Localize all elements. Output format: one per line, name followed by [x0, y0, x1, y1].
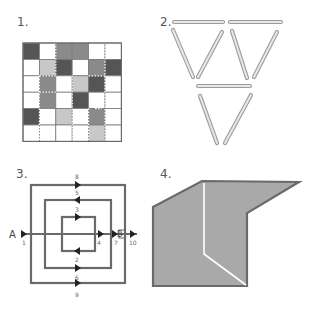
start-label: A — [9, 229, 16, 240]
arrow-right-icon — [98, 230, 104, 238]
matchstick — [254, 32, 277, 77]
grid-cell — [72, 109, 88, 125]
grid-cell — [89, 59, 105, 75]
grid-cell — [105, 92, 121, 108]
path-label-1: 1 — [22, 239, 26, 246]
grid-cell — [89, 43, 105, 59]
grid-cell — [72, 76, 88, 92]
grid-cell — [39, 76, 55, 92]
path-label-6: 6 — [75, 274, 79, 281]
arrow-right-icon — [75, 181, 81, 189]
grid-cell — [72, 125, 88, 141]
puzzle-4-folded-shape — [153, 181, 299, 286]
grid-cell — [39, 92, 55, 108]
grid-cell — [23, 125, 39, 141]
grid-cell — [105, 76, 121, 92]
grid-cell — [56, 76, 72, 92]
path-label-4: 4 — [97, 239, 101, 246]
grid-cell — [56, 125, 72, 141]
grid-cell — [56, 59, 72, 75]
path-label-9: 9 — [75, 291, 79, 298]
arrow-left-icon — [74, 247, 80, 255]
grid-cell — [105, 125, 121, 141]
grid-cell — [23, 92, 39, 108]
matchstick — [232, 31, 247, 78]
grid-cell — [89, 76, 105, 92]
puzzle-canvas: A B 1 2 3 4 5 6 7 8 9 10 — [0, 0, 317, 318]
grid-cell — [39, 59, 55, 75]
arrow-left-icon — [74, 196, 80, 204]
grid-cell — [56, 109, 72, 125]
grid-cell — [23, 109, 39, 125]
grid-cell — [105, 109, 121, 125]
grid-cell — [105, 43, 121, 59]
grid-cell — [23, 43, 39, 59]
path-label-8: 8 — [75, 173, 79, 180]
path-label-7: 7 — [114, 239, 118, 246]
matchstick — [173, 30, 193, 77]
path-label-3: 3 — [75, 206, 79, 213]
grid-cell — [39, 109, 55, 125]
grid-cell — [56, 43, 72, 59]
grid-cell — [89, 109, 105, 125]
grid-cell — [105, 59, 121, 75]
matchstick — [198, 32, 222, 77]
grid-cell — [39, 125, 55, 141]
end-label: B — [117, 230, 123, 239]
grid-cell — [23, 76, 39, 92]
path-label-10: 10 — [129, 239, 137, 246]
arrow-right-icon — [75, 213, 81, 221]
grid-cell — [89, 92, 105, 108]
arrow-right-icon — [130, 230, 136, 238]
grid-cell — [23, 59, 39, 75]
arrow-right-icon — [75, 264, 81, 272]
grid-cell — [56, 92, 72, 108]
puzzle-2-matchsticks — [173, 22, 281, 143]
path-label-5: 5 — [75, 189, 79, 196]
grid-cell — [89, 125, 105, 141]
grid-cell — [72, 59, 88, 75]
matchstick — [200, 96, 217, 143]
arrow-right-icon — [21, 230, 27, 238]
grid-cell — [72, 43, 88, 59]
grid-cell — [72, 92, 88, 108]
puzzle-1-grid — [23, 43, 121, 141]
grid-cell — [39, 43, 55, 59]
puzzle-3-path-diagram: A B 1 2 3 4 5 6 7 8 9 10 — [9, 173, 137, 298]
matchstick — [225, 95, 251, 143]
path-label-2: 2 — [75, 256, 79, 263]
